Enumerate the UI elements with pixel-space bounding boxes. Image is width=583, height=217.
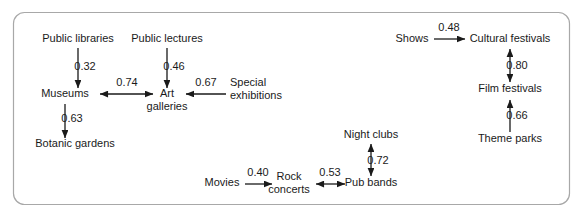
node-label-rock_concerts_1: Rock: [276, 170, 302, 182]
edge-weight-label: 0.80: [506, 59, 527, 71]
edge-special_exhibitions-to-art_galleries: 0.67: [186, 76, 226, 94]
edge-weight-label: 0.48: [438, 21, 459, 33]
edge-weight-label: 0.72: [367, 154, 388, 166]
edge-museums-to-art_galleries: 0.74: [100, 76, 153, 94]
edge-museums-to-botanic_gardens: 0.63: [61, 104, 82, 138]
edge-public_libraries-to-museums: 0.32: [74, 48, 95, 88]
edge-weight-label: 0.63: [61, 112, 82, 124]
path-diagram-figure: 0.320.460.740.670.630.400.530.720.480.80…: [0, 0, 583, 217]
node-label-night_clubs: Night clubs: [344, 128, 399, 140]
edge-weight-label: 0.67: [195, 76, 216, 88]
node-label-rock_concerts_2: concerts: [268, 183, 310, 195]
node-label-public_libraries: Public libraries: [42, 32, 114, 44]
edge-theme_parks-to-film_festivals: 0.66: [506, 100, 527, 132]
node-label-movies: Movies: [205, 176, 240, 188]
node-label-film_festivals: Film festivals: [478, 82, 542, 94]
edge-weight-label: 0.74: [116, 76, 137, 88]
edge-weight-label: 0.53: [319, 166, 340, 178]
node-label-cultural_festivals: Cultural festivals: [470, 32, 551, 44]
edge-cultural_festivals-to-film_festivals: 0.80: [506, 49, 527, 82]
node-label-art_galleries_1: Art: [160, 87, 174, 99]
node-label-art_galleries_2: galleries: [147, 100, 188, 112]
node-label-museums: Museums: [41, 87, 89, 99]
edge-night_clubs-to-pub_bands: 0.72: [367, 144, 388, 176]
edge-movies-to-rock_concerts: 0.40: [245, 166, 272, 184]
edge-public_lectures-to-art_galleries: 0.46: [163, 48, 184, 88]
edges-layer: 0.320.460.740.670.630.400.530.720.480.80…: [61, 21, 527, 184]
edge-weight-label: 0.32: [74, 60, 95, 72]
node-label-public_lectures: Public lectures: [131, 32, 203, 44]
node-label-theme_parks: Theme parks: [478, 132, 543, 144]
node-label-special_exh_1: Special: [230, 76, 266, 88]
edge-weight-label: 0.40: [247, 166, 268, 178]
edge-shows-to-cultural_festivals: 0.48: [434, 21, 465, 39]
node-label-special_exh_2: exhibitions: [230, 89, 282, 101]
node-label-pub_bands: Pub bands: [345, 176, 398, 188]
edge-weight-label: 0.66: [506, 109, 527, 121]
node-label-botanic_gardens: Botanic gardens: [35, 137, 115, 149]
edge-weight-label: 0.46: [163, 60, 184, 72]
node-label-shows: Shows: [395, 32, 429, 44]
edge-rock_concerts-to-pub_bands: 0.53: [316, 166, 345, 184]
nodes-layer: Public librariesPublic lecturesMuseumsAr…: [35, 32, 551, 195]
diagram-canvas: 0.320.460.740.670.630.400.530.720.480.80…: [0, 0, 583, 217]
